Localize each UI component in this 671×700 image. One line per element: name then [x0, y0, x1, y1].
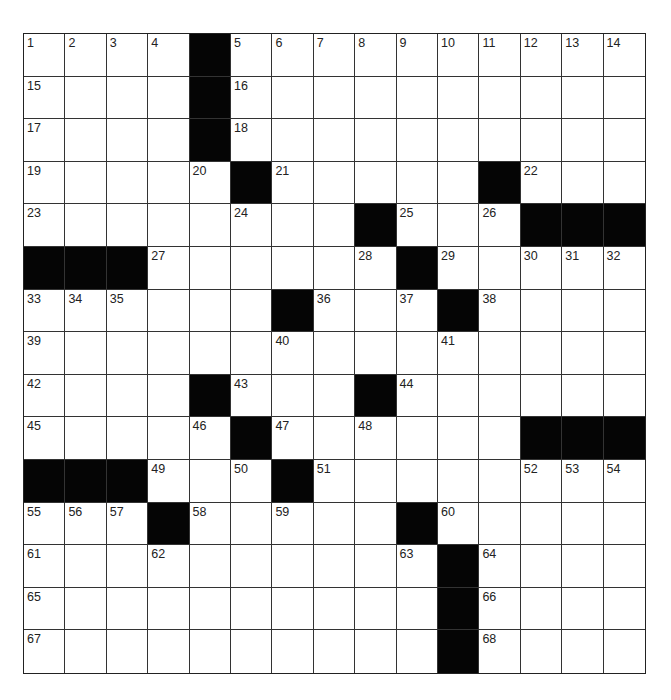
grid-cell[interactable] [355, 290, 396, 333]
grid-cell[interactable]: 15 [24, 77, 65, 120]
grid-cell[interactable] [479, 460, 520, 503]
grid-cell[interactable] [190, 332, 231, 375]
grid-cell[interactable]: 49 [148, 460, 189, 503]
grid-cell[interactable] [562, 119, 603, 162]
grid-cell[interactable] [190, 588, 231, 631]
grid-cell[interactable] [65, 375, 106, 418]
grid-cell[interactable] [231, 290, 272, 333]
grid-cell[interactable] [397, 119, 438, 162]
grid-cell[interactable]: 14 [604, 34, 645, 77]
grid-cell[interactable] [190, 204, 231, 247]
grid-cell[interactable]: 66 [479, 588, 520, 631]
grid-cell[interactable] [397, 417, 438, 460]
grid-cell[interactable] [190, 290, 231, 333]
grid-cell[interactable] [314, 332, 355, 375]
grid-cell[interactable]: 4 [148, 34, 189, 77]
grid-cell[interactable]: 37 [397, 290, 438, 333]
grid-cell[interactable] [65, 77, 106, 120]
grid-cell[interactable] [604, 162, 645, 205]
grid-cell[interactable] [355, 630, 396, 673]
grid-cell[interactable] [107, 77, 148, 120]
grid-cell[interactable] [148, 588, 189, 631]
grid-cell[interactable]: 38 [479, 290, 520, 333]
grid-cell[interactable] [355, 460, 396, 503]
grid-cell[interactable] [604, 332, 645, 375]
grid-cell[interactable]: 10 [438, 34, 479, 77]
grid-cell[interactable] [479, 503, 520, 546]
grid-cell[interactable] [148, 417, 189, 460]
grid-cell[interactable] [65, 332, 106, 375]
grid-cell[interactable]: 60 [438, 503, 479, 546]
grid-cell[interactable]: 30 [521, 247, 562, 290]
grid-cell[interactable]: 29 [438, 247, 479, 290]
grid-cell[interactable]: 8 [355, 34, 396, 77]
grid-cell[interactable] [479, 77, 520, 120]
grid-cell[interactable] [314, 119, 355, 162]
grid-cell[interactable] [65, 119, 106, 162]
grid-cell[interactable]: 47 [272, 417, 313, 460]
grid-cell[interactable] [562, 545, 603, 588]
grid-cell[interactable]: 65 [24, 588, 65, 631]
grid-cell[interactable] [604, 503, 645, 546]
grid-cell[interactable]: 16 [231, 77, 272, 120]
grid-cell[interactable] [562, 630, 603, 673]
grid-cell[interactable]: 50 [231, 460, 272, 503]
grid-cell[interactable]: 52 [521, 460, 562, 503]
grid-cell[interactable]: 53 [562, 460, 603, 503]
grid-cell[interactable]: 34 [65, 290, 106, 333]
grid-cell[interactable]: 27 [148, 247, 189, 290]
grid-cell[interactable] [314, 77, 355, 120]
grid-cell[interactable] [314, 247, 355, 290]
grid-cell[interactable] [604, 588, 645, 631]
grid-cell[interactable] [148, 332, 189, 375]
grid-cell[interactable] [604, 119, 645, 162]
grid-cell[interactable]: 5 [231, 34, 272, 77]
grid-cell[interactable]: 9 [397, 34, 438, 77]
grid-cell[interactable] [272, 204, 313, 247]
grid-cell[interactable]: 67 [24, 630, 65, 673]
grid-cell[interactable]: 23 [24, 204, 65, 247]
grid-cell[interactable] [107, 588, 148, 631]
grid-cell[interactable] [562, 375, 603, 418]
grid-cell[interactable] [562, 162, 603, 205]
grid-cell[interactable]: 19 [24, 162, 65, 205]
grid-cell[interactable] [397, 77, 438, 120]
grid-cell[interactable] [148, 77, 189, 120]
grid-cell[interactable] [521, 119, 562, 162]
grid-cell[interactable]: 18 [231, 119, 272, 162]
grid-cell[interactable]: 42 [24, 375, 65, 418]
grid-cell[interactable]: 41 [438, 332, 479, 375]
grid-cell[interactable] [65, 545, 106, 588]
grid-cell[interactable] [272, 630, 313, 673]
grid-cell[interactable] [479, 247, 520, 290]
grid-cell[interactable] [190, 247, 231, 290]
grid-cell[interactable] [65, 588, 106, 631]
grid-cell[interactable]: 36 [314, 290, 355, 333]
grid-cell[interactable]: 56 [65, 503, 106, 546]
grid-cell[interactable] [272, 375, 313, 418]
grid-cell[interactable]: 45 [24, 417, 65, 460]
grid-cell[interactable] [272, 247, 313, 290]
grid-cell[interactable] [190, 630, 231, 673]
grid-cell[interactable]: 43 [231, 375, 272, 418]
grid-cell[interactable] [272, 545, 313, 588]
grid-cell[interactable]: 40 [272, 332, 313, 375]
grid-cell[interactable] [107, 332, 148, 375]
grid-cell[interactable] [604, 545, 645, 588]
grid-cell[interactable]: 22 [521, 162, 562, 205]
grid-cell[interactable]: 61 [24, 545, 65, 588]
grid-cell[interactable]: 11 [479, 34, 520, 77]
grid-cell[interactable] [65, 162, 106, 205]
grid-cell[interactable] [604, 630, 645, 673]
grid-cell[interactable] [397, 332, 438, 375]
grid-cell[interactable] [521, 77, 562, 120]
grid-cell[interactable]: 1 [24, 34, 65, 77]
grid-cell[interactable] [107, 204, 148, 247]
grid-cell[interactable]: 33 [24, 290, 65, 333]
grid-cell[interactable]: 12 [521, 34, 562, 77]
grid-cell[interactable]: 2 [65, 34, 106, 77]
grid-cell[interactable] [314, 204, 355, 247]
grid-cell[interactable] [438, 77, 479, 120]
grid-cell[interactable] [148, 162, 189, 205]
grid-cell[interactable]: 64 [479, 545, 520, 588]
